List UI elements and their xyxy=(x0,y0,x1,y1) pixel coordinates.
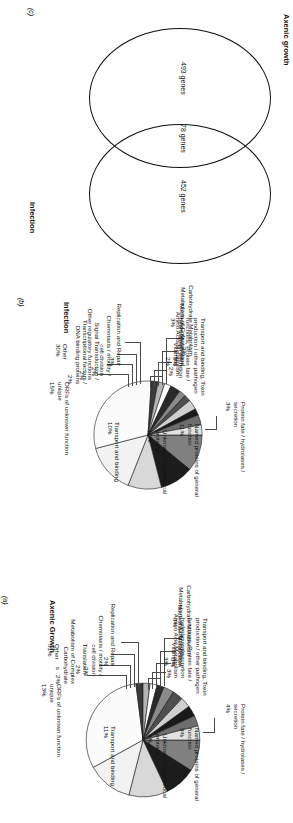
leader-line xyxy=(136,354,137,385)
leader-line xyxy=(150,376,151,388)
leader-line xyxy=(152,672,153,689)
leader-line xyxy=(216,416,217,430)
leader-line xyxy=(214,718,215,733)
leader-line xyxy=(154,370,155,387)
panel-a-tag: (a) xyxy=(2,596,9,605)
venn-left-count: 493 genes xyxy=(180,62,187,95)
leader-line xyxy=(128,374,129,387)
leader-line xyxy=(130,665,131,688)
figure-root: (c) 493 genes 78 genes 452 genes Axenic … xyxy=(0,0,293,823)
panel-c-venn: (c) 493 genes 78 genes 452 genes Axenic … xyxy=(11,6,293,274)
pie-label-transport-toxin-protein-fate: Transport and binding, Toxin production … xyxy=(170,318,207,390)
pie-label-transport-binding: Transport and binding 10% xyxy=(106,422,121,492)
venn-diagram: 493 genes 78 genes 452 genes xyxy=(49,28,279,268)
leader-line xyxy=(134,654,135,687)
pie-label-transport-binding: Transport and binding 11% xyxy=(102,726,117,798)
leader-line xyxy=(156,663,157,688)
venn-overlap-count: 78 genes xyxy=(180,124,187,153)
pie-label-protein-fate-secretion: Protein fate / hydrolases / secretion 3% xyxy=(225,402,247,482)
leader-line xyxy=(153,672,166,673)
leader-line xyxy=(160,651,161,687)
leader-line xyxy=(148,678,149,690)
leader-line xyxy=(149,678,161,679)
leader-line xyxy=(121,642,139,643)
pie-label-unknown-hypothetical: Unknown / hypothetical proteins 9% xyxy=(147,734,169,798)
venn-label-axenic: Axenic growth xyxy=(282,14,291,66)
pie-label-transcriptional-factors: Transcriptional factors / DNA binding pr… xyxy=(67,308,89,384)
venn-right-count: 452 genes xyxy=(180,180,187,213)
pie-label-protein-fate-secretion: Protein fate / hydrolases / secretion 4% xyxy=(225,704,247,786)
pie-label-other: Other 31% xyxy=(46,644,61,688)
pie-label-orfs-unknown-unique: ORFs of unknown function unique 13% xyxy=(41,684,63,768)
leader-line xyxy=(140,342,141,384)
panel-b-tag: (b) xyxy=(18,298,25,307)
leader-line xyxy=(205,429,217,430)
leader-line xyxy=(155,370,167,371)
leader-line xyxy=(138,642,139,686)
leader-line xyxy=(126,675,127,689)
leader-line xyxy=(125,342,141,343)
leader-line xyxy=(162,351,163,385)
leader-line xyxy=(158,362,159,386)
venn-label-infection: Infection xyxy=(28,202,37,233)
leader-line xyxy=(151,376,162,377)
panel-c-tag: (c) xyxy=(28,8,35,16)
pie-label-transport-toxin-protein-fate: Transport and binding, Toxin production … xyxy=(172,618,209,692)
panel-b-infection-pie: (b) Infection xyxy=(3,296,293,492)
panel-a-axenic-pie: (a) Axenic Growth xyxy=(3,594,293,806)
pie-label-named-proteins-general: Named proteins of general function 9% xyxy=(179,728,201,800)
leader-line xyxy=(132,364,133,386)
pie-label-unknown-hypothetical: Unknown / hypothetical proteins 10% xyxy=(147,430,169,492)
pie-label-orfs-unknown-unique: ORFs of unknown function unique 15% xyxy=(49,382,71,464)
pie-label-other: Other 30% xyxy=(54,344,69,388)
leader-line xyxy=(203,732,215,733)
pie-label-named-proteins-general: Named proteins of general function 11% xyxy=(179,424,201,494)
